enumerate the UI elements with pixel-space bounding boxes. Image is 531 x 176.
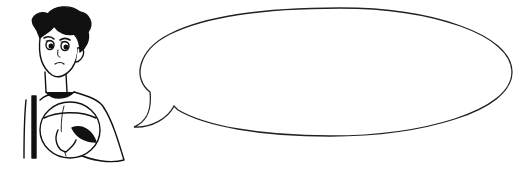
speech-bubble-text [170, 40, 490, 110]
character [24, 7, 124, 162]
ball [40, 102, 100, 158]
illustration [0, 0, 531, 176]
face [40, 38, 79, 77]
